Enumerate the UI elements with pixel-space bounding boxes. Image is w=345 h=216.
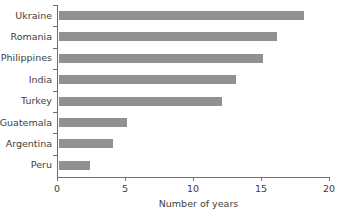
bar [59, 32, 277, 41]
bar-row [57, 26, 329, 47]
x-axis-tick [261, 177, 262, 181]
x-axis-tick-label: 15 [241, 183, 281, 194]
bar [59, 118, 127, 127]
x-axis-tick-label: 0 [37, 183, 77, 194]
y-axis-tick [53, 155, 57, 156]
x-axis-tick-label: 20 [309, 183, 345, 194]
bar [59, 54, 263, 63]
x-axis-tick [329, 177, 330, 181]
bar-chart: UkraineRomaniaPhilippinesIndiaTurkeyGuat… [0, 0, 345, 216]
bar-row [57, 133, 329, 154]
bar [59, 139, 113, 148]
x-axis-tick-label: 5 [105, 183, 145, 194]
bar-row [57, 5, 329, 26]
y-axis-tick [53, 69, 57, 70]
y-axis-category-label: India [0, 75, 52, 85]
x-axis-title: Number of years [0, 198, 345, 209]
y-axis-tick [53, 133, 57, 134]
y-axis-category-label: Philippines [0, 53, 52, 63]
y-axis-tick [53, 5, 57, 6]
bar-row [57, 155, 329, 176]
y-axis-category-label: Guatemala [0, 118, 52, 128]
bar-row [57, 48, 329, 69]
bar-row [57, 112, 329, 133]
x-axis-tick [193, 177, 194, 181]
y-axis-tick [53, 91, 57, 92]
y-axis-category-label: Ukraine [0, 11, 52, 21]
bar [59, 75, 236, 84]
bar [59, 97, 222, 106]
plot-area [57, 5, 329, 176]
x-axis-tick-label: 10 [173, 183, 213, 194]
y-axis-tick [53, 112, 57, 113]
y-axis-category-label: Peru [0, 160, 52, 170]
y-axis-category-label: Turkey [0, 96, 52, 106]
bar-row [57, 69, 329, 90]
bar [59, 161, 90, 170]
bar-row [57, 91, 329, 112]
y-axis-category-label: Argentina [0, 139, 52, 149]
x-axis-tick [125, 177, 126, 181]
y-axis-tick [53, 48, 57, 49]
y-axis-tick [53, 26, 57, 27]
bar-rows [57, 5, 329, 176]
y-axis-category-label: Romania [0, 32, 52, 42]
x-axis-tick [57, 177, 58, 181]
bar [59, 11, 304, 20]
x-axis-title-text: Number of years [159, 198, 239, 209]
